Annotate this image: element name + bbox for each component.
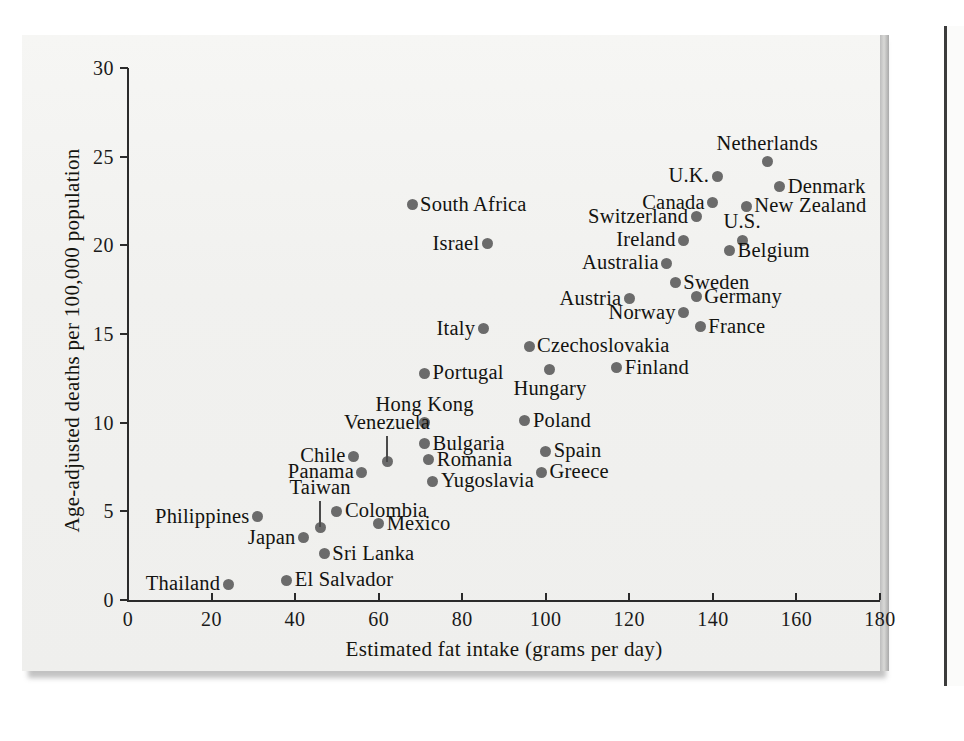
page-edge-shadow <box>880 35 889 671</box>
facing-page-sliver <box>944 26 964 686</box>
page-surface <box>22 35 880 671</box>
scanned-page <box>22 35 880 671</box>
